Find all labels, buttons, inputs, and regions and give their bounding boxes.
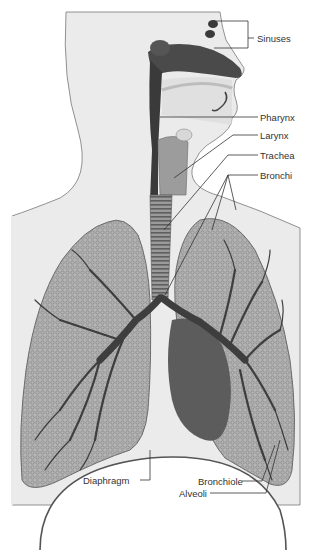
anatomy-illustration	[0, 0, 313, 552]
label-diaphragm: Diaphragm	[83, 476, 129, 486]
respiratory-system-diagram: Sinuses Pharynx Larynx Trachea Bronchi D…	[0, 0, 313, 552]
label-trachea: Trachea	[260, 151, 295, 161]
label-bronchi: Bronchi	[260, 171, 292, 181]
label-sinuses: Sinuses	[257, 34, 291, 44]
label-bronchiole: Bronchiole	[198, 477, 243, 487]
label-pharynx: Pharynx	[260, 113, 295, 123]
label-larynx: Larynx	[260, 131, 289, 141]
trachea	[150, 195, 172, 300]
label-alveoli: Alveoli	[179, 489, 207, 499]
